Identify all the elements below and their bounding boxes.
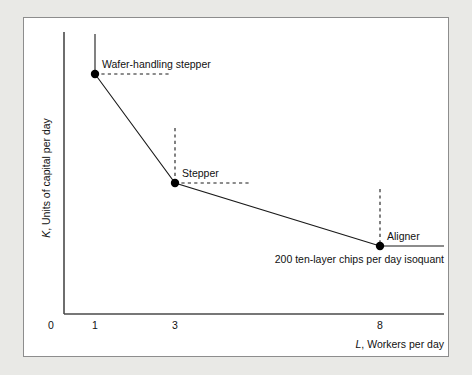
x-tick-label-1: 1 [92, 319, 98, 331]
label-aligner: Aligner [387, 230, 420, 242]
x-tick-label-0: 0 [48, 319, 54, 331]
label-wafer-handling-stepper: Wafer-handling stepper [102, 58, 211, 70]
data-point-wafer-handling-stepper [91, 70, 99, 78]
x-tick-label-3: 3 [172, 319, 178, 331]
figure-root: Wafer-handling stepper Stepper Aligner 2… [0, 0, 472, 375]
isoquant-caption: 200 ten-layer chips per day isoquant [275, 253, 444, 265]
x-axis-title-text: , Workers per day [361, 338, 444, 350]
x-tick-label-8: 8 [377, 319, 383, 331]
y-axis-title: K, Units of capital per day [40, 117, 52, 237]
isoquant-plot: Wafer-handling stepper Stepper Aligner 2… [24, 18, 448, 356]
label-stepper: Stepper [182, 167, 219, 179]
figure-panel: Wafer-handling stepper Stepper Aligner 2… [23, 17, 449, 357]
x-axis-title: L, Workers per day [355, 338, 444, 350]
y-axis-title-text: , Units of capital per day [40, 117, 52, 230]
isoquant-line [95, 74, 380, 246]
data-point-aligner [376, 242, 384, 250]
data-point-stepper [171, 179, 179, 187]
